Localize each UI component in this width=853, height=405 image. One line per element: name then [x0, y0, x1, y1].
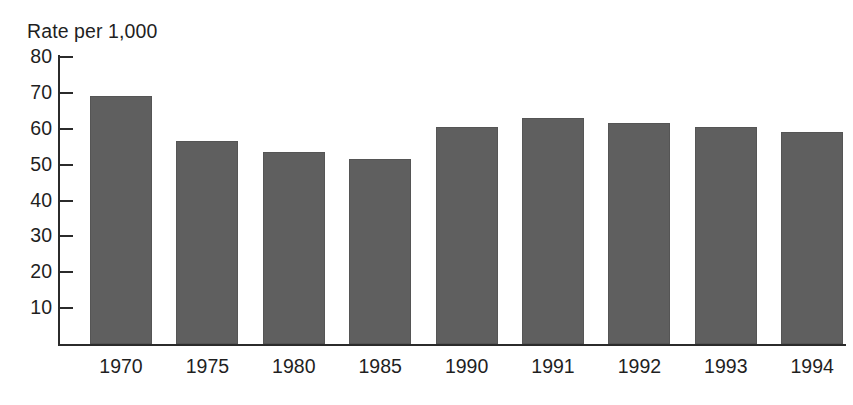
y-axis-tick-label: 30 [10, 226, 52, 246]
y-axis-tick-label: 20 [10, 262, 52, 282]
bar [695, 127, 757, 344]
bar [90, 96, 152, 344]
y-axis-tick-labels: 8070605040302010 [10, 55, 52, 346]
bar [608, 123, 670, 344]
x-axis-tick-label: 1980 [255, 355, 333, 377]
y-axis-tick-label: 40 [10, 191, 52, 211]
y-axis-title: Rate per 1,000 [27, 20, 157, 42]
x-axis-tick-label: 1985 [341, 355, 419, 377]
bar [522, 118, 584, 344]
bar [349, 159, 411, 344]
x-axis-tick-label: 1994 [773, 355, 851, 377]
y-axis-tick-label: 60 [10, 119, 52, 139]
x-axis-tick-label: 1970 [82, 355, 160, 377]
x-axis-tick-labels: 197019751980198519901991199219931994 [58, 355, 846, 385]
x-axis-tick-label: 1975 [168, 355, 246, 377]
bars-layer [58, 55, 846, 346]
bar [176, 141, 238, 344]
x-axis-tick-label: 1992 [600, 355, 678, 377]
bar [263, 152, 325, 344]
bar [781, 132, 843, 344]
x-axis-tick-label: 1993 [687, 355, 765, 377]
y-axis-tick-label: 70 [10, 83, 52, 103]
x-axis-tick-label: 1990 [428, 355, 506, 377]
x-axis-tick-label: 1991 [514, 355, 592, 377]
bar-chart-figure: Rate per 1,000 8070605040302010 19701975… [0, 0, 853, 405]
bar [436, 127, 498, 344]
plot-area: 8070605040302010 [58, 55, 846, 346]
y-axis-tick-label: 10 [10, 298, 52, 318]
y-axis-tick-label: 50 [10, 155, 52, 175]
y-axis-tick-label: 80 [10, 47, 52, 67]
